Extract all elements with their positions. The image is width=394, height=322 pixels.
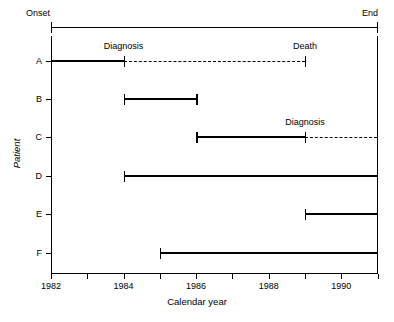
x-tick-1990 [341, 274, 342, 279]
x-tick-1983 [87, 274, 88, 279]
y-tick-label-d: D [28, 172, 42, 181]
segment-observed-f [160, 252, 378, 254]
end-cap-c [305, 132, 307, 143]
y-tick-c [46, 137, 51, 138]
segment-observed-e [305, 213, 378, 215]
x-tick-1985 [160, 274, 161, 279]
x-tick-1991 [378, 274, 379, 279]
x-tick-1984 [124, 274, 125, 279]
y-tick-label-e: E [28, 210, 42, 219]
patient-timeline-chart: Onset End ABCDEF 19821984198619881990 Di… [0, 0, 394, 322]
y-tick-label-c: C [28, 133, 42, 142]
x-tick-label-1988: 1988 [249, 281, 289, 291]
y-tick-label-a: A [28, 57, 42, 66]
event-label-a-death: Death [260, 41, 350, 51]
end-cap-b [196, 94, 198, 105]
y-tick-b [46, 99, 51, 100]
x-tick-1987 [232, 274, 233, 279]
segment-observed-d [124, 175, 378, 177]
start-cap-d [124, 171, 126, 182]
x-tick-label-1984: 1984 [104, 281, 144, 291]
x-tick-1986 [196, 274, 197, 279]
y-axis-line [51, 36, 52, 274]
start-cap-f [160, 248, 162, 259]
segment-observed-a [51, 60, 124, 62]
end-cap-a [124, 56, 126, 67]
start-cap-c [196, 132, 198, 143]
y-tick-d [46, 176, 51, 177]
y-tick-e [46, 214, 51, 215]
x-tick-label-1986: 1986 [176, 281, 216, 291]
x-tick-1982 [51, 274, 52, 279]
death-cap-a [305, 56, 307, 67]
start-cap-b [124, 94, 126, 105]
event-label-c-diagnosis: Diagnosis [260, 117, 350, 127]
end-tick [377, 22, 378, 33]
x-tick-label-1990: 1990 [321, 281, 361, 291]
x-tick-1988 [269, 274, 270, 279]
y-tick-f [46, 253, 51, 254]
y-tick-label-f: F [28, 249, 42, 258]
segment-followup-a [124, 61, 305, 62]
onset-label: Onset [26, 8, 50, 18]
x-tick-label-1982: 1982 [31, 281, 71, 291]
end-label: End [362, 8, 378, 18]
y-axis-title: Patient [11, 124, 22, 184]
segment-observed-b [124, 98, 197, 100]
onset-tick [51, 22, 52, 33]
y-tick-label-b: B [28, 95, 42, 104]
segment-observed-c [196, 136, 305, 138]
x-axis-line [51, 273, 378, 274]
x-tick-1989 [305, 274, 306, 279]
start-cap-e [305, 209, 307, 220]
event-label-a-diagnosis: Diagnosis [79, 41, 169, 51]
x-axis-title: Calendar year [0, 296, 394, 307]
right-axis-line [377, 36, 378, 274]
onset-end-rule [51, 27, 378, 28]
segment-followup-c [305, 137, 378, 138]
